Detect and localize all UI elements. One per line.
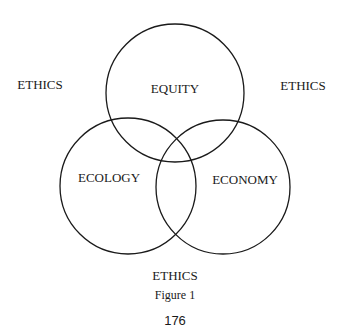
economy-label: ECONOMY [212, 172, 278, 188]
ethics-label-bottom: ETHICS [152, 268, 198, 284]
ecology-label: ECOLOGY [78, 170, 140, 186]
figure-caption: Figure 1 [155, 288, 195, 303]
equity-label: EQUITY [151, 81, 199, 97]
ethics-label-right: ETHICS [280, 78, 326, 94]
page-number: 176 [164, 313, 186, 328]
ethics-label-left: ETHICS [17, 77, 63, 93]
